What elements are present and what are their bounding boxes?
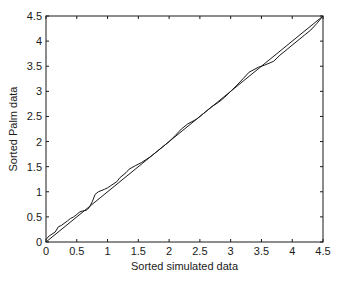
x-axis-label: Sorted simulated data (131, 260, 239, 272)
y-tick-label: 4.5 (27, 10, 42, 22)
x-tick-label: 0 (43, 245, 49, 257)
x-tick-label: 0.5 (69, 245, 84, 257)
x-tick-label: 4.5 (315, 245, 330, 257)
y-axis-label: Sorted Palm data (7, 86, 19, 172)
x-tick-label: 2 (166, 245, 172, 257)
x-tick-label: 3.5 (254, 245, 269, 257)
x-tick-label: 3 (228, 245, 234, 257)
y-tick-label: 0.5 (27, 211, 42, 223)
x-tick-label: 1.5 (131, 245, 146, 257)
y-tick-label: 4 (36, 35, 42, 47)
reference-line (46, 16, 323, 242)
y-tick-label: 2 (36, 136, 42, 148)
y-tick-label: 0 (36, 236, 42, 248)
plot-area (46, 16, 323, 242)
x-tick-label: 4 (289, 245, 295, 257)
y-tick-label: 3.5 (27, 60, 42, 72)
y-tick-label: 2.5 (27, 110, 42, 122)
y-tick-label: 1 (36, 186, 42, 198)
y-tick-label: 3 (36, 85, 42, 97)
x-tick-label: 1 (104, 245, 110, 257)
y-axis-ticks: 00.511.522.533.544.5 (27, 10, 323, 248)
qq-plot: 00.511.522.533.544.5 00.511.522.533.544.… (0, 0, 341, 283)
x-tick-label: 2.5 (192, 245, 207, 257)
y-tick-label: 1.5 (27, 161, 42, 173)
x-axis-ticks: 00.511.522.533.544.5 (43, 16, 331, 257)
